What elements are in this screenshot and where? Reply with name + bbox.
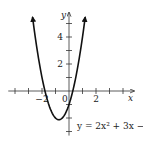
y-tick-label: 4: [57, 32, 63, 42]
y-axis-label: y: [60, 10, 67, 20]
x-tick-label: 2: [93, 94, 99, 104]
equation-label: y = 2x² + 3x − 1: [76, 121, 143, 131]
x-axis-label: x: [128, 93, 133, 103]
y-tick-label: 2: [57, 59, 63, 69]
parabola-plot: −2242 x y 0 y = 2x² + 3x − 1: [0, 0, 143, 144]
axes: [8, 13, 134, 136]
origin-label: 0: [62, 94, 68, 104]
